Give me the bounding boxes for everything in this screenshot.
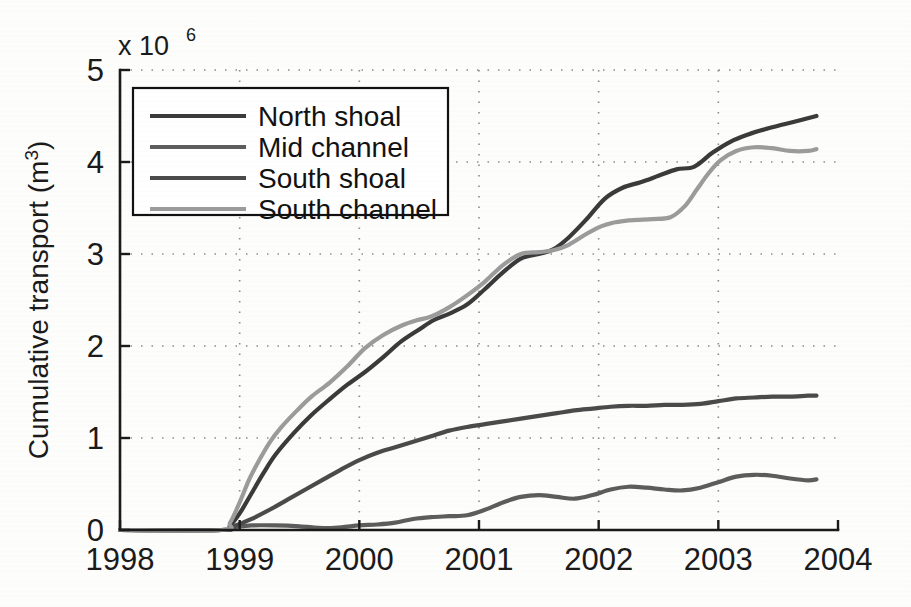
legend-label-north-shoal: North shoal — [258, 101, 401, 132]
legend-label-south-channel: South channel — [258, 194, 437, 225]
x-tick-label: 2002 — [564, 542, 633, 577]
y-axis-title: Cumulative transport (m3) — [21, 141, 54, 460]
series-line-south-shoal — [120, 396, 816, 531]
x-tick-label: 1999 — [205, 542, 274, 577]
y-tick-label: 5 — [87, 53, 104, 88]
x-tick-label: 2004 — [804, 542, 873, 577]
y-tick-label: 3 — [87, 237, 104, 272]
legend-label-mid-channel: Mid channel — [258, 132, 409, 163]
exponent-base-text: x 10 — [118, 31, 169, 61]
figure-canvas: 1998199920002001200220032004 012345 x 10… — [0, 0, 911, 607]
y-axis-title-suffix: ) — [23, 141, 54, 150]
y-tick-label: 1 — [87, 421, 104, 456]
y-tick-label: 4 — [87, 145, 104, 180]
y-axis-title-main: Cumulative transport (m — [23, 161, 54, 460]
cumulative-transport-chart: 1998199920002001200220032004 012345 x 10… — [0, 0, 911, 607]
y-tick-label: 2 — [87, 329, 104, 364]
legend-label-south-shoal: South shoal — [258, 163, 406, 194]
series-line-mid-channel — [120, 475, 816, 530]
chart-legend[interactable]: North shoalMid channelSouth shoalSouth c… — [133, 88, 448, 225]
x-tick-label: 2000 — [325, 542, 394, 577]
exponent-superscript-text: 6 — [186, 25, 196, 45]
y-axis-title-superscript: 3 — [21, 150, 42, 161]
x-tick-label: 2003 — [684, 542, 753, 577]
y-axis-exponent-label: x 10 6 — [118, 25, 196, 61]
x-tick-label: 2001 — [445, 542, 514, 577]
y-tick-labels: 012345 — [87, 53, 104, 548]
y-axis-title-text: Cumulative transport (m3) — [21, 141, 54, 460]
x-tick-labels: 1998199920002001200220032004 — [86, 542, 873, 577]
y-tick-label: 0 — [87, 513, 104, 548]
